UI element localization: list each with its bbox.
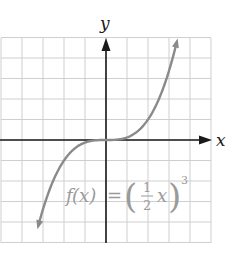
curve-arrow-down-icon — [36, 220, 43, 230]
eq-left-paren: ( — [124, 176, 137, 216]
equation-label: f (x) = ( 1 2 x ) 3 — [64, 174, 188, 216]
eq-denominator: 2 — [143, 198, 151, 213]
curve-arrow-up-icon — [172, 39, 179, 49]
eq-variable: x — [157, 185, 167, 206]
function-graph: y x f (x) = ( 1 2 x ) 3 — [0, 0, 226, 257]
x-axis-arrow-icon — [199, 136, 212, 145]
eq-numerator: 1 — [143, 180, 151, 195]
x-axis-label: x — [216, 130, 226, 150]
eq-argument: (x) — [72, 185, 96, 206]
y-axis-label: y — [99, 13, 110, 33]
eq-equals: = — [107, 185, 122, 206]
y-axis-arrow-icon — [102, 38, 111, 51]
eq-exponent: 3 — [181, 174, 188, 187]
eq-right-paren: ) — [168, 176, 181, 216]
